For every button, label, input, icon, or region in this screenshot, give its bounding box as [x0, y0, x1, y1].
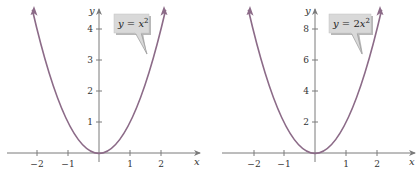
chart-svg-two-x-squared: −2 −1 1 2 2 4 6 8 x y y = 2x2 [216, 0, 420, 177]
x-tick-label: −2 [30, 159, 43, 169]
chart-panel-x-squared: −2 −1 1 2 1 2 3 4 x y y = x2 [0, 0, 210, 177]
equation-callout: y = x2 [114, 14, 151, 55]
y-tick-label: 6 [303, 55, 309, 65]
equation-label: y = 2x2 [332, 17, 370, 29]
equation-label: y = x2 [117, 17, 149, 29]
x-tick-label: 2 [158, 159, 164, 169]
y-tick-label: 1 [87, 117, 93, 127]
y-tick-label: 3 [87, 55, 93, 65]
x-tick-label: 1 [127, 159, 133, 169]
y-axis-label: y [88, 5, 95, 16]
chart-panel-two-x-squared: −2 −1 1 2 2 4 6 8 x y y = 2x2 [216, 0, 420, 177]
y-tick-label: 8 [303, 24, 309, 34]
y-tick-label: 2 [87, 86, 93, 96]
x-axis-label: x [194, 156, 200, 167]
x-tick-label: −1 [277, 159, 290, 169]
x-axis-label: x [409, 156, 415, 167]
y-tick-label: 4 [87, 24, 93, 34]
x-tick-label: −1 [61, 159, 74, 169]
x-tick-label: −2 [247, 159, 260, 169]
chart-svg-x-squared: −2 −1 1 2 1 2 3 4 x y y = x2 [0, 0, 210, 177]
y-axis-label: y [304, 5, 311, 16]
y-tick-label: 4 [303, 86, 309, 96]
x-tick-label: 2 [374, 159, 380, 169]
x-tick-label: 1 [343, 159, 349, 169]
equation-callout: y = 2x2 [329, 14, 373, 55]
y-tick-label: 2 [303, 117, 309, 127]
